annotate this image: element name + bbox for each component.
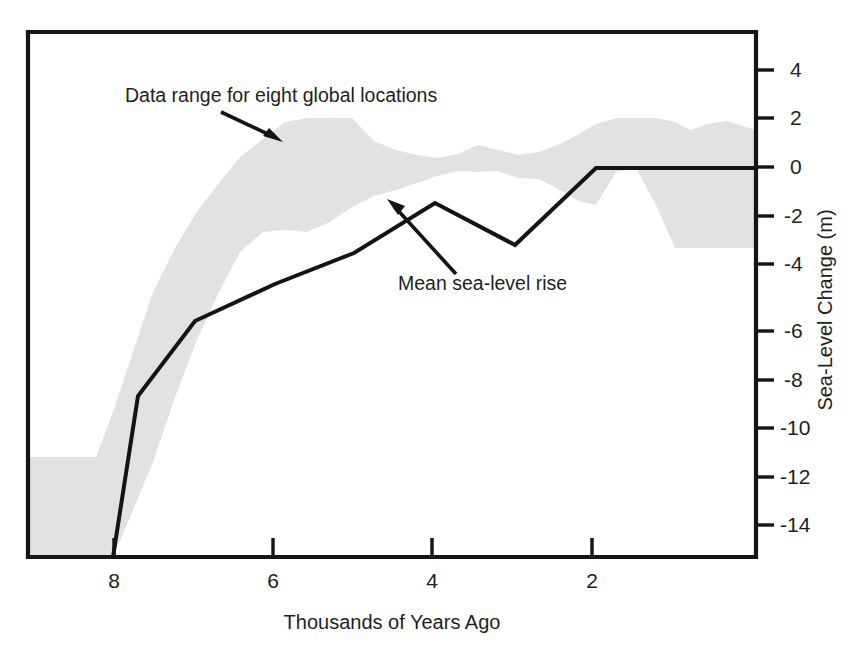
y-tick-label-minus-14: -14 [780, 513, 811, 536]
y-tick-label-0: 0 [790, 155, 802, 178]
x-tick-label-4: 4 [426, 569, 438, 592]
y-tick-label-minus-12: -12 [780, 465, 810, 488]
x-axis-tick-labels: 8 6 4 2 [108, 569, 598, 592]
x-tick-label-6: 6 [267, 569, 279, 592]
chart-canvas: 8 6 4 2 4 2 0 -2 -4 -6 -8 -10 [0, 0, 858, 647]
x-tick-label-8: 8 [108, 569, 120, 592]
y-tick-label-minus-8: -8 [784, 368, 803, 391]
y-tick-label-minus-6: -6 [784, 319, 803, 342]
y-axis-title: Sea-Level Change (m) [814, 209, 836, 410]
y-tick-label-4: 4 [790, 58, 802, 81]
y-tick-label-minus-2: -2 [784, 204, 803, 227]
mean-line-annotation-label: Mean sea-level rise [398, 272, 567, 294]
y-tick-label-minus-10: -10 [780, 416, 810, 439]
sea-level-chart-figure: 8 6 4 2 4 2 0 -2 -4 -6 -8 -10 [0, 0, 858, 647]
y-axis-tick-labels: 4 2 0 -2 -4 -6 -8 -10 -12 -14 [780, 58, 811, 536]
x-axis-title: Thousands of Years Ago [284, 611, 501, 633]
data-range-annotation-label: Data range for eight global locations [125, 84, 437, 106]
y-axis-ticks [756, 70, 774, 525]
x-tick-label-2: 2 [586, 569, 598, 592]
y-tick-label-2: 2 [790, 106, 802, 129]
y-tick-label-minus-4: -4 [784, 252, 803, 275]
